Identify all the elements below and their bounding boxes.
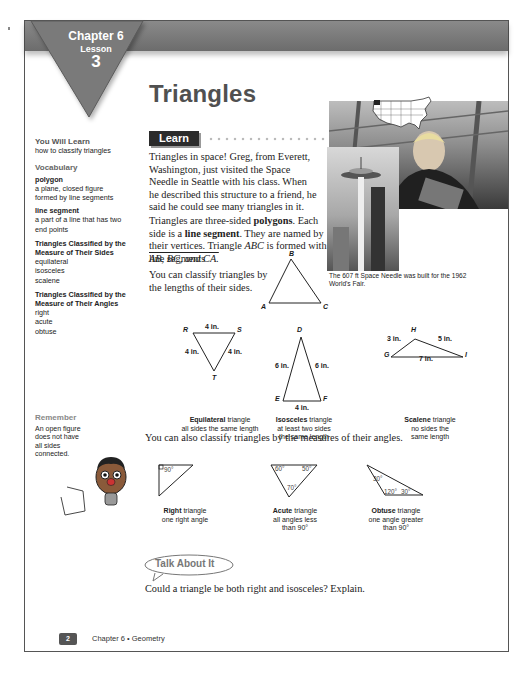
type-name: Equilateral [190, 416, 226, 423]
talk-about-it-label: Talk About It [155, 558, 214, 569]
vertex-label: S [237, 326, 242, 333]
vocab-group-item: equilateral [35, 257, 127, 266]
dotted-divider [207, 137, 327, 141]
type-name: Obtuse [371, 507, 395, 514]
angle-measure: 30° [373, 475, 383, 482]
text: triangle [396, 507, 421, 514]
acute-description: Acute triangle all angles less than 90° [265, 507, 325, 533]
angle-measure: 30° [401, 488, 411, 495]
us-map-icon [371, 95, 436, 135]
space-needle-photo [327, 147, 399, 271]
page-title: Triangles [149, 80, 256, 108]
type-name: Isosceles [276, 416, 308, 423]
side-measure: 4 in. [295, 404, 309, 411]
text: triangle [307, 416, 332, 423]
text: than 90° [282, 524, 308, 531]
lesson-number: 3 [53, 54, 139, 70]
mascot-icon [91, 451, 131, 511]
will-learn-text: how to classify triangles [35, 146, 127, 155]
vocab-definition: a plane, closed figure formed by line se… [35, 184, 127, 202]
remember-heading: Remember [35, 414, 127, 423]
vertex-label: B [289, 250, 294, 257]
triangle-abc-figure [265, 253, 331, 311]
angle-measure: 70° [287, 484, 297, 491]
text: all sides the same length [181, 425, 258, 432]
vocab-group-item: right [35, 308, 127, 317]
vocab-group-item: isosceles [35, 266, 127, 275]
angle-measure: 60° [275, 465, 285, 472]
angle-measure: 50° [302, 465, 312, 472]
photo-caption: The 607 ft Space Needle was built for th… [329, 272, 489, 289]
text: one right angle [162, 516, 208, 523]
learn-label: Learn [149, 131, 199, 146]
side-measure: 4 in. [228, 348, 242, 355]
vertex-label: I [465, 351, 467, 358]
textbook-page: Chapter 6 Lesson 3 Triangles You Will Le… [24, 20, 509, 652]
type-name: Acute [273, 507, 292, 514]
footer-text: Chapter 6 • Geometry [92, 634, 165, 643]
text: no sides the [411, 425, 449, 432]
triangle-name: ABC [245, 240, 264, 251]
segment-list: AB, BC, and CA. [149, 253, 269, 266]
text: one angle greater [369, 516, 424, 523]
classify-sides-paragraph: You can classify triangles by the length… [149, 269, 269, 294]
side-measure: 6 in. [315, 362, 329, 369]
text: triangle [181, 507, 206, 514]
text: triangle [292, 507, 317, 514]
vertex-label: D [297, 326, 302, 333]
isosceles-triangle-figure [279, 333, 329, 407]
side-measure: 7 in. [419, 355, 433, 362]
vertex-label: H [411, 326, 416, 333]
text: all angles less [273, 516, 317, 523]
vocab-group-item: acute [35, 317, 127, 326]
text: than 90° [383, 524, 409, 531]
type-name: Right [164, 507, 182, 514]
side-measure: 5 in. [438, 335, 452, 342]
vocab-definition: a part of a line that has two end points [35, 215, 127, 233]
vertex-label: T [212, 374, 216, 381]
will-learn-heading: You Will Learn [35, 137, 127, 146]
vertex-label: F [323, 395, 327, 402]
text: at least two sides [277, 425, 331, 432]
remember-text: An open figure does not have all sides c… [35, 425, 85, 459]
vertex-label: R [183, 326, 188, 333]
chapter-badge: Chapter 6 Lesson 3 [53, 29, 139, 70]
vocab-term: line segment [35, 206, 127, 215]
chapter-label: Chapter 6 [53, 29, 139, 43]
vocab-group-item: scalene [35, 276, 127, 285]
side-measure: 4 in. [205, 323, 219, 330]
vertex-label: A [261, 303, 266, 310]
angles-intro: You can also classify triangles by the m… [145, 432, 505, 445]
text: Triangles are three-sided [149, 215, 254, 226]
term-line-segment: line segment [185, 228, 240, 239]
side-measure: 3 in. [387, 335, 401, 342]
right-triangle-figure [157, 463, 197, 499]
angle-measure: 90° [164, 466, 174, 473]
term-polygons: polygons [254, 215, 293, 226]
text: triangle [225, 416, 250, 423]
intro-paragraph: Triangles in space! Greg, from Everett, … [149, 151, 319, 214]
vocab-group-heading: Triangles Classified by the Measure of T… [35, 290, 127, 308]
text: triangle [431, 416, 456, 423]
vocab-term: polygon [35, 175, 127, 184]
talk-about-it-question: Could a triangle be both right and isosc… [145, 583, 505, 596]
open-figure-icon [59, 485, 89, 519]
vertex-label: G [384, 351, 389, 358]
vertex-label: E [275, 395, 280, 402]
page-number-badge: 2 [59, 633, 77, 645]
vertex-label: C [323, 303, 328, 310]
vocab-group-item: obtuse [35, 327, 127, 336]
right-description: Right triangle one right angle [155, 507, 215, 524]
crop-mark [8, 27, 10, 30]
side-measure: 6 in. [275, 362, 289, 369]
angle-measure: 120° [384, 488, 397, 495]
obtuse-description: Obtuse triangle one angle greater than 9… [361, 507, 431, 533]
type-name: Scalene [404, 416, 430, 423]
vocabulary-heading: Vocabulary [35, 163, 127, 172]
side-measure: 4 in. [185, 348, 199, 355]
sidebar: You Will Learn how to classify triangles… [35, 137, 127, 336]
vocab-group-heading: Triangles Classified by the Measure of T… [35, 239, 127, 257]
